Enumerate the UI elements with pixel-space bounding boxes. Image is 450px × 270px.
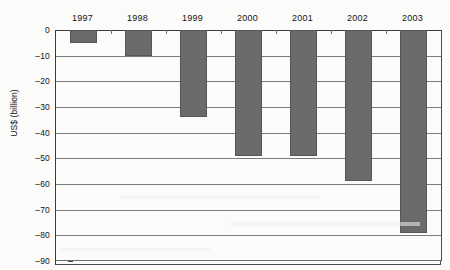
y-axis-tick-label: –20 <box>35 76 50 86</box>
y-axis-tick-label: –60 <box>35 179 50 189</box>
category-separator-tick <box>221 30 222 34</box>
y-axis-tick-mark <box>68 261 73 262</box>
x-axis-category-label: 2001 <box>292 13 313 23</box>
bar-chart: US$ (billion) 0–10–20–30–40–50–60–70–80–… <box>0 0 450 270</box>
chart-frame-left-foot <box>55 261 56 265</box>
bar <box>180 30 206 117</box>
x-axis-category-label: 1999 <box>182 13 203 23</box>
y-axis-tick-label: –90 <box>35 256 50 266</box>
x-axis-category-label: 2000 <box>237 13 258 23</box>
gridline <box>56 210 441 211</box>
y-axis-tick-labels: 0–10–20–30–40–50–60–70–80–90 <box>18 0 50 270</box>
x-axis-category-label: 1998 <box>127 13 148 23</box>
x-axis-category-label: 2002 <box>347 13 368 23</box>
bar <box>400 30 426 233</box>
x-axis-category-label: 1997 <box>72 13 93 23</box>
bar <box>290 30 316 156</box>
y-axis-tick-label: –30 <box>35 102 50 112</box>
category-separator-tick <box>276 30 277 34</box>
x-axis-category-labels: 1997199819992000200120022003 <box>55 13 440 27</box>
cropped-chart-title <box>70 0 340 8</box>
bar <box>345 30 371 181</box>
bottom-gridline <box>56 260 441 261</box>
gridline <box>56 158 441 159</box>
bar <box>70 30 96 43</box>
y-axis-tick-label: –10 <box>35 51 50 61</box>
x-axis-category-label: 2003 <box>402 13 423 23</box>
y-axis-tick-label: –40 <box>35 128 50 138</box>
category-separator-tick <box>111 30 112 34</box>
chart-frame-right-foot <box>440 261 441 265</box>
gridline <box>56 235 441 236</box>
category-separator-tick <box>166 30 167 34</box>
bar <box>235 30 261 156</box>
y-axis-tick-label: –50 <box>35 153 50 163</box>
plot-area <box>55 30 442 261</box>
category-separator-tick <box>331 30 332 34</box>
y-axis-tick-label: 0 <box>45 25 50 35</box>
chart-frame-bottom <box>55 264 441 265</box>
y-axis-tick-label: –80 <box>35 230 50 240</box>
bar <box>125 30 151 56</box>
y-axis-tick-label: –70 <box>35 205 50 215</box>
category-separator-tick <box>386 30 387 34</box>
gridline <box>56 184 441 185</box>
